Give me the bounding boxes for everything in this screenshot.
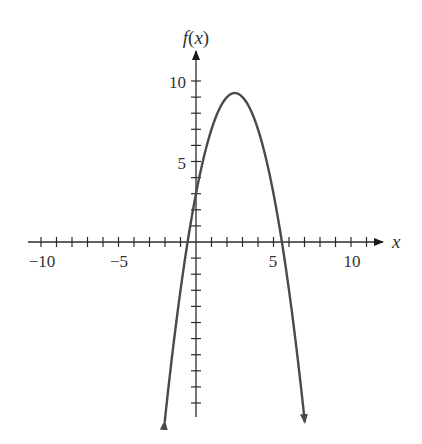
x-axis-label: x bbox=[391, 231, 401, 252]
y-tick-label-5: 5 bbox=[178, 154, 187, 173]
parabola-curve bbox=[165, 93, 305, 422]
x-tick-label-neg10: −10 bbox=[29, 252, 56, 271]
function-graph: −10 −5 5 10 10 5 x f(x) bbox=[0, 0, 422, 444]
x-tick-label-5: 5 bbox=[269, 252, 278, 271]
y-axis-label: f(x) bbox=[183, 27, 209, 49]
x-tick-label-10: 10 bbox=[344, 252, 361, 271]
x-tick-label-neg5: −5 bbox=[110, 252, 128, 271]
y-tick-label-10: 10 bbox=[169, 73, 186, 92]
y-axis-label-paren-close: ) bbox=[203, 27, 209, 49]
